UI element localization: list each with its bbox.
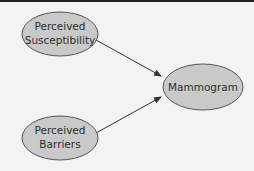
node-mammogram[interactable]: Mammogram: [163, 64, 243, 110]
edge-susceptibility-to-mammogram: [96, 40, 161, 76]
edge-barriers-to-mammogram: [96, 97, 161, 133]
path-diagram: Perceived Susceptibility Perceived Barri…: [0, 0, 254, 171]
node-perceived-susceptibility[interactable]: Perceived Susceptibility: [22, 12, 98, 56]
node-label-line1: Perceived: [35, 124, 86, 136]
node-label-line2: Barriers: [39, 138, 80, 150]
node-label-line1: Perceived: [35, 20, 86, 32]
node-perceived-barriers[interactable]: Perceived Barriers: [22, 116, 98, 160]
diagram-canvas: Perceived Susceptibility Perceived Barri…: [0, 0, 254, 171]
node-label-line2: Susceptibility: [25, 34, 95, 46]
node-label: Mammogram: [168, 81, 238, 93]
